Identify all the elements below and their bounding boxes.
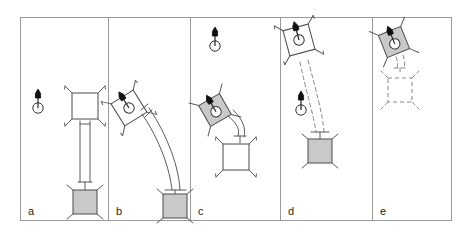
panel-d: d (274, 15, 338, 217)
panel-c: c (189, 27, 256, 217)
panel-b: b (101, 80, 193, 223)
straight-boom (78, 121, 92, 190)
panel-label-c: c (198, 205, 204, 217)
target-payload (157, 189, 193, 223)
dashed-connector (394, 55, 407, 74)
panel-label-b: b (116, 205, 122, 217)
target-payload (67, 185, 103, 219)
figure-svg: .fr { fill:none; stroke:#9a9a9a; stroke-… (0, 0, 466, 238)
dashed-tether (300, 60, 329, 139)
chaser-module (216, 137, 257, 177)
free-marker-icon (33, 89, 43, 113)
target-payload (302, 134, 338, 168)
free-marker-icon (210, 27, 220, 51)
figure-root: .fr { fill:none; stroke:#9a9a9a; stroke-… (0, 0, 466, 238)
curved-boom (141, 104, 186, 197)
panel-label-d: d (288, 205, 294, 217)
dashed-ghost-module (381, 71, 419, 109)
free-marker-icon (296, 91, 306, 115)
panel-label-a: a (28, 205, 35, 217)
panel-e: e (369, 17, 419, 217)
panel-label-e: e (380, 205, 386, 217)
chaser-module (65, 86, 106, 126)
panel-a: a (28, 86, 106, 219)
